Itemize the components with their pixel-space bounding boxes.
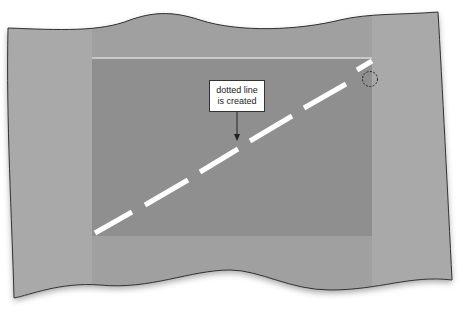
callout-line-2: is created [210,96,264,107]
callout-line-1: dotted line [210,85,264,96]
screenshot-canvas [0,0,463,317]
callout-label: dotted line is created [209,80,265,112]
